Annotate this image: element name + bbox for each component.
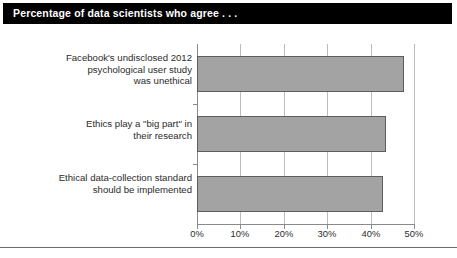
- category-label: Facebook's undisclosed 2012 psychologica…: [2, 52, 192, 87]
- x-tick-label: 30%: [307, 228, 347, 239]
- x-tick-label: 50%: [394, 228, 434, 239]
- bar-ethical-standard: [197, 176, 383, 212]
- page-title: Percentage of data scientists who agree …: [13, 7, 237, 19]
- x-tick-label: 0%: [177, 228, 217, 239]
- y-axis-tick: [193, 164, 197, 165]
- y-axis-tick: [193, 104, 197, 105]
- x-tick-label: 10%: [220, 228, 260, 239]
- chart-title-bar: Percentage of data scientists who agree …: [3, 3, 452, 24]
- x-tick-label: 20%: [264, 228, 304, 239]
- x-axis-line: [197, 224, 415, 225]
- x-tick-label: 40%: [351, 228, 391, 239]
- category-axis-labels: Facebook's undisclosed 2012 psychologica…: [0, 44, 192, 224]
- plot-area: [197, 44, 415, 224]
- footer-divider: [0, 247, 457, 248]
- bar-ethics-big-part: [197, 116, 386, 152]
- gridline-50: [414, 44, 415, 224]
- category-label: Ethical data-collection standard should …: [2, 172, 192, 195]
- x-axis-tick-labels: 0% 10% 20% 30% 40% 50%: [197, 228, 437, 242]
- chart-figure: Percentage of data scientists who agree …: [0, 0, 457, 258]
- category-label: Ethics play a "big part" in their resear…: [2, 118, 192, 141]
- bar-facebook-study-unethical: [197, 56, 404, 92]
